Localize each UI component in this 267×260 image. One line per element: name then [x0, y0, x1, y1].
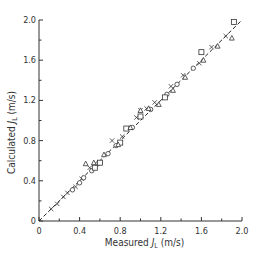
- x-axis-title: Measured JL (m/s): [105, 237, 184, 250]
- cross-marker: [153, 100, 157, 104]
- cross-marker: [61, 195, 65, 199]
- square-marker: [231, 20, 236, 25]
- x-tick-label: 1.6: [195, 226, 208, 236]
- scatter-chart: 00.40.81.21.62.000.40.81.21.62.0 Measure…: [0, 0, 267, 260]
- square-marker: [92, 165, 97, 170]
- axes: 00.40.81.21.62.000.40.81.21.62.0: [23, 15, 248, 236]
- x-tick-label: 2.0: [236, 226, 249, 236]
- cross-marker: [224, 34, 228, 38]
- series-triangles: [83, 35, 234, 165]
- data-points: [49, 20, 236, 212]
- x-tick-label: 0.8: [114, 226, 127, 236]
- triangle-marker: [83, 161, 88, 166]
- y-tick-label: 0: [31, 216, 36, 226]
- square-marker: [97, 160, 102, 165]
- cross-marker: [65, 191, 69, 195]
- square-marker: [138, 114, 143, 119]
- square-marker: [162, 95, 167, 100]
- y-tick-label: 0.4: [23, 176, 36, 186]
- circle-marker: [106, 151, 110, 155]
- triangle-marker: [91, 160, 96, 165]
- x-tick-label: 0: [36, 226, 41, 236]
- square-marker: [199, 50, 204, 55]
- x-tick-label: 0.4: [73, 226, 86, 236]
- x-tick-label: 1.2: [154, 226, 167, 236]
- circle-marker: [77, 181, 81, 185]
- y-tick-label: 1.2: [23, 95, 36, 105]
- circle-marker: [81, 176, 85, 180]
- cross-marker: [209, 45, 213, 49]
- y-axis-title: Calculated JL (m/s): [6, 91, 19, 174]
- triangle-marker: [229, 35, 234, 40]
- y-tick-label: 1.6: [23, 55, 36, 65]
- y-tick-label: 0.8: [23, 136, 36, 146]
- circle-marker: [175, 82, 179, 86]
- triangle-marker: [171, 88, 176, 93]
- y-tick-label: 2.0: [23, 15, 36, 25]
- circle-marker: [70, 188, 74, 192]
- circle-marker: [191, 66, 195, 70]
- series-squares: [92, 20, 236, 171]
- cross-marker: [49, 207, 53, 211]
- cross-marker: [110, 138, 114, 142]
